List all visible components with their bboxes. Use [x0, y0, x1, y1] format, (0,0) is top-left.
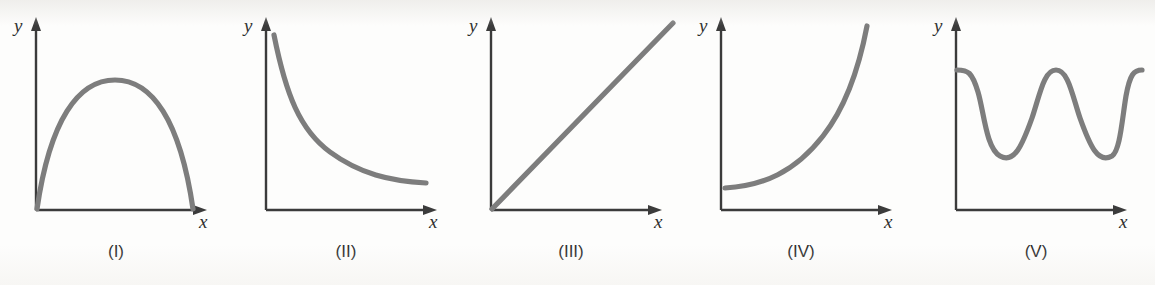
curve-oscillating-wave — [957, 70, 1142, 158]
curve-linear-increasing — [492, 23, 673, 209]
panel-3-caption: (III) — [491, 243, 651, 260]
graph-figure: y x (I) y x (II) y x (III) — [0, 0, 1155, 285]
panel-3: y x (III) — [455, 0, 685, 285]
panel-2-caption: (II) — [266, 243, 426, 260]
panel-5-caption: (V) — [956, 243, 1116, 260]
y-axis-arrow-icon — [486, 17, 496, 31]
panel-1-caption: (I) — [36, 243, 196, 260]
y-axis-arrow-icon — [951, 17, 961, 31]
panel-4: y x (IV) — [685, 0, 915, 285]
x-axis-label: x — [884, 212, 892, 231]
y-axis-label: y — [14, 16, 22, 35]
x-axis-label: x — [1119, 212, 1127, 231]
y-axis-label: y — [244, 16, 252, 35]
curve-exponential-decay — [274, 35, 426, 183]
y-axis-label: y — [934, 16, 942, 35]
panel-2: y x (II) — [230, 0, 460, 285]
y-axis-arrow-icon — [261, 17, 271, 31]
x-axis-label: x — [654, 212, 662, 231]
curve-parabola-arch — [37, 80, 193, 209]
panel-4-caption: (IV) — [721, 243, 881, 260]
y-axis-label: y — [469, 16, 477, 35]
y-axis-arrow-icon — [31, 17, 41, 31]
y-axis-arrow-icon — [716, 17, 726, 31]
panel-5: y x (V) — [920, 0, 1155, 285]
y-axis-label: y — [699, 16, 707, 35]
panel-1: y x (I) — [0, 0, 230, 285]
curve-exponential-growth — [725, 26, 867, 188]
x-axis-label: x — [429, 212, 437, 231]
x-axis-label: x — [199, 212, 207, 231]
